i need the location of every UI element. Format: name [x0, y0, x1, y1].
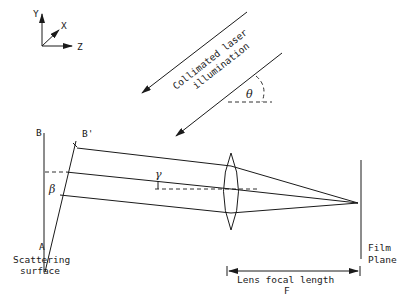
beta-label: β — [48, 183, 55, 196]
tilted-surface-line — [45, 141, 76, 272]
scattering-surface-label-1: Scattering — [13, 254, 70, 265]
focal-length-dimension: Lens focal length F — [227, 266, 360, 296]
film-plane: Film Plane — [361, 160, 397, 265]
point-b-label: B — [36, 127, 42, 138]
focal-length-label: Lens focal length — [237, 274, 334, 285]
focal-length-symbol: F — [284, 285, 290, 296]
laser-illumination-arrows: Collimated laser illumination θ — [142, 12, 282, 136]
axis-x-label: X — [61, 20, 67, 31]
lens-icon — [224, 153, 239, 230]
scattering-optics-diagram: Y X Z Collimated laser illumination θ B … — [0, 0, 409, 297]
coordinate-axes-icon: Y X Z — [33, 8, 83, 52]
axis-z-label: Z — [77, 41, 83, 52]
gamma-label: γ — [155, 168, 162, 181]
theta-arc — [256, 76, 264, 102]
ray-middle — [66, 172, 358, 203]
axis-y-label: Y — [33, 8, 39, 19]
film-label-line2: Plane — [368, 254, 397, 265]
scattering-surface-label-2: surface — [20, 265, 60, 276]
ray-top — [77, 148, 358, 203]
theta-label: θ — [246, 88, 253, 101]
film-label-line1: Film — [368, 242, 391, 253]
scattered-rays: γ — [60, 148, 358, 213]
point-b-prime-label: B' — [82, 128, 93, 139]
point-a-label: A — [39, 241, 45, 252]
